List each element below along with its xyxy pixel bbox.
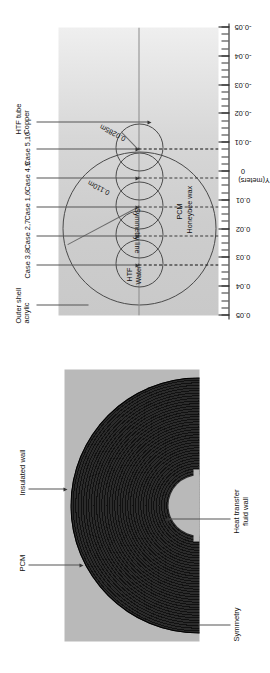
y-axis-major-tick (218, 55, 229, 56)
y-axis-tick-label: -0.01 (230, 138, 256, 147)
locator-line-case-3-8 (138, 264, 218, 265)
y-axis-minor-tick (221, 91, 228, 92)
schematic-panel: HTF Water Symmetry line PCM Honeybee wax… (6, 7, 256, 337)
y-axis-minor-tick (221, 300, 228, 301)
callout-arrow-htf-tube (147, 121, 151, 125)
y-axis-minor-tick (221, 127, 228, 128)
callout-outer-shell: Outer shell acrylic (14, 287, 31, 323)
y-axis-tick-label: 0.03 (230, 253, 256, 262)
callout-leader-case-5-10 (36, 148, 136, 149)
y-axis-minor-tick (221, 163, 228, 164)
y-axis-title: Y(meters) (234, 176, 261, 185)
rotation-wrapper: PCM Insulated wall Symmetry Heat transfe… (0, 0, 260, 673)
y-axis-minor-tick (221, 98, 228, 99)
callout-leader-htf-tube (36, 121, 148, 122)
mesh-leader-htf-wall (168, 518, 230, 519)
y-axis-minor-tick (221, 264, 228, 265)
mesh-leader-symmetry (198, 624, 230, 625)
mesh-label-pcm: PCM (18, 554, 26, 571)
y-axis-minor-tick (221, 235, 228, 236)
y-axis-minor-tick (221, 184, 228, 185)
y-axis-minor-tick (221, 105, 228, 106)
y-axis-major-tick (218, 256, 229, 257)
callout-leader-case-1-6 (36, 206, 136, 207)
y-axis-major-tick (218, 84, 229, 85)
mesh-label-insulated-wall: Insulated wall (18, 449, 26, 495)
callout-arrow-case-2-7 (135, 235, 139, 239)
callout-arrow-case-1-6 (135, 206, 139, 210)
y-axis-minor-tick (221, 134, 228, 135)
callout-arrow-case-3-8 (135, 264, 139, 268)
y-axis-major-tick (218, 112, 229, 113)
y-axis-minor-tick (221, 206, 228, 207)
y-axis-minor-tick (221, 307, 228, 308)
callout-arrow-case-4-9 (135, 177, 139, 181)
y-axis-major-tick (218, 199, 229, 200)
mesh-leader-pcm (28, 564, 80, 565)
dimension-label-tube: 0.0285m (98, 122, 127, 143)
y-axis-major-tick (218, 170, 229, 171)
y-axis-tick-label: -0.02 (230, 109, 256, 118)
callout-case-3-8-line1: Case 3,8 (23, 248, 31, 278)
y-axis-tick-label: 0.02 (230, 224, 256, 233)
y-axis-major-tick (218, 285, 229, 286)
mesh-label-htf-wall-line1: Heat transfer (232, 481, 240, 541)
callout-case-1-6: Case 1,6 (23, 190, 31, 220)
y-axis-minor-tick (221, 148, 228, 149)
y-axis-minor-tick (221, 213, 228, 214)
callout-case-3-8: Case 3,8 (23, 248, 31, 278)
y-axis-major-tick (218, 228, 229, 229)
callout-leader-outer-shell (36, 304, 88, 305)
callout-case-5-10-line1: Case 5,10 (23, 131, 31, 165)
figure-page: PCM Insulated wall Symmetry Heat transfe… (0, 0, 260, 673)
y-axis-tick-label: -0.05 (230, 23, 256, 32)
mesh-hole-mask (193, 469, 199, 541)
y-axis-minor-tick (221, 156, 228, 157)
schematic-plot-area: HTF Water Symmetry line PCM Honeybee wax… (58, 27, 218, 315)
y-axis-minor-tick (221, 69, 228, 70)
y-axis-minor-tick (221, 33, 228, 34)
y-axis-tick-label: 0.05 (230, 311, 256, 320)
y-axis-minor-tick (221, 192, 228, 193)
y-axis-minor-tick (221, 242, 228, 243)
y-axis-minor-tick (221, 62, 228, 63)
y-axis-minor-tick (221, 120, 228, 121)
y-axis-major-tick (218, 141, 229, 142)
locator-line-case-4-9 (138, 177, 218, 178)
y-axis-minor-tick (221, 249, 228, 250)
mesh-arrow-pcm (79, 564, 83, 568)
mesh-arrow-htf-wall (164, 518, 168, 522)
label-honeybee-wax: Honeybee wax (184, 185, 193, 233)
callout-arrow-case-5-10 (135, 148, 139, 152)
mesh-domain (64, 369, 199, 641)
label-symmetry-line: Symmetry line (132, 207, 141, 253)
label-htf: HTF (124, 267, 133, 281)
y-axis-tick-label: -0.04 (230, 51, 256, 60)
callout-outer-shell-line2: acrylic (22, 287, 30, 323)
callout-htf-tube-line2: Copper (22, 103, 30, 134)
y-axis-minor-tick (221, 220, 228, 221)
mesh-label-htf-wall-line2: fluid wall (241, 481, 249, 541)
y-axis-major-tick (218, 26, 229, 27)
y-axis-tick-label: 0 (230, 167, 256, 176)
figure-stage: PCM Insulated wall Symmetry Heat transfe… (0, 0, 260, 673)
callout-case-1-6-line1: Case 1,6 (23, 190, 31, 220)
callout-leader-case-2-7 (36, 235, 136, 236)
callout-case-2-7: Case 2,7 (23, 219, 31, 249)
y-axis-tick-label: 0.01 (230, 195, 256, 204)
y-axis-minor-tick (221, 278, 228, 279)
callout-case-4-9: Case 4,9 (23, 161, 31, 191)
y-axis-minor-tick (221, 177, 228, 178)
callout-htf-tube: HTF tube Copper (14, 103, 31, 134)
mesh-label-symmetry: Symmetry (232, 607, 240, 641)
mesh-arrow-insulated-wall (63, 488, 67, 492)
callout-leader-case-3-8 (36, 264, 136, 265)
label-pcm: PCM (174, 203, 183, 219)
mesh-leader-insulated-wall (28, 488, 64, 489)
y-axis-minor-tick (221, 76, 228, 77)
y-axis-minor-tick (221, 40, 228, 41)
y-axis-tick-label: -0.03 (230, 80, 256, 89)
callout-case-4-9-line1: Case 4,9 (23, 161, 31, 191)
mesh-panel: PCM Insulated wall Symmetry Heat transfe… (6, 345, 256, 665)
y-axis-tick-label: 0.04 (230, 282, 256, 291)
